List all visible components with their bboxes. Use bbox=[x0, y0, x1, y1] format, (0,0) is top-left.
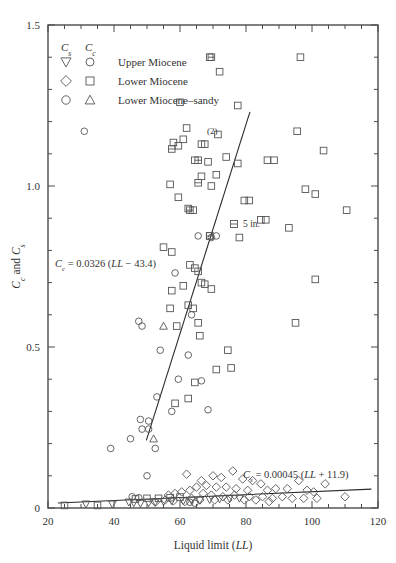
data-point bbox=[212, 483, 220, 491]
legend: CsCcUpper MioceneLower MioceneLower Mioc… bbox=[61, 41, 220, 106]
legend-marker-cc-2 bbox=[85, 95, 95, 104]
y-tick-label: 1.5 bbox=[26, 19, 40, 31]
data-point bbox=[320, 147, 327, 154]
legend-header-cs: Cs bbox=[61, 41, 71, 58]
data-point bbox=[213, 366, 220, 373]
data-point bbox=[240, 496, 248, 504]
data-point bbox=[297, 54, 304, 61]
data-point bbox=[205, 406, 212, 413]
data-point bbox=[303, 486, 311, 494]
data-point bbox=[107, 445, 114, 452]
data-point bbox=[341, 493, 349, 501]
x-tick-label: 40 bbox=[109, 515, 121, 527]
data-point bbox=[157, 347, 164, 354]
data-point bbox=[271, 157, 278, 164]
data-point bbox=[294, 128, 301, 135]
data-point bbox=[229, 467, 237, 475]
data-point bbox=[154, 394, 161, 401]
data-point bbox=[195, 233, 202, 240]
size-note: 5 in. bbox=[243, 219, 260, 229]
data-point bbox=[300, 494, 308, 502]
y-axis-title: Cc and Cs bbox=[10, 244, 27, 288]
data-point bbox=[195, 179, 202, 186]
data-point bbox=[139, 323, 146, 330]
data-point bbox=[207, 491, 215, 499]
data-point bbox=[167, 181, 174, 188]
data-point bbox=[208, 54, 215, 61]
series-cc-lower-miocene bbox=[160, 54, 350, 407]
data-point bbox=[228, 365, 235, 372]
data-point bbox=[292, 320, 299, 327]
data-point bbox=[135, 318, 142, 325]
data-point bbox=[81, 128, 88, 135]
legend-header-cc: Cc bbox=[85, 41, 96, 58]
x-tick-label: 120 bbox=[370, 515, 387, 527]
data-point bbox=[264, 157, 271, 164]
legend-marker-cc-0 bbox=[86, 58, 94, 66]
data-point bbox=[167, 305, 174, 312]
x-tick-label: 100 bbox=[304, 515, 321, 527]
data-point bbox=[172, 400, 179, 407]
y-tick-label: 0 bbox=[35, 502, 41, 514]
data-point bbox=[288, 494, 296, 502]
data-point bbox=[195, 320, 202, 327]
data-point bbox=[152, 445, 159, 452]
data-point bbox=[127, 435, 134, 442]
data-point bbox=[302, 186, 309, 193]
data-point bbox=[144, 473, 151, 480]
size-note-marker bbox=[231, 221, 238, 228]
data-point bbox=[173, 323, 180, 330]
data-point bbox=[188, 312, 195, 319]
data-point bbox=[209, 472, 217, 480]
data-point bbox=[236, 495, 244, 502]
data-point bbox=[278, 493, 286, 501]
data-point bbox=[109, 501, 117, 508]
data-point bbox=[192, 379, 199, 386]
data-point bbox=[312, 276, 319, 283]
data-point bbox=[175, 194, 182, 201]
legend-label: Upper Miocene bbox=[118, 56, 187, 68]
data-point bbox=[197, 332, 204, 339]
legend-marker-cc-1 bbox=[86, 77, 94, 85]
data-point bbox=[236, 234, 243, 241]
data-point bbox=[177, 488, 185, 496]
data-point bbox=[312, 191, 319, 198]
count-note: (2) bbox=[207, 126, 218, 136]
data-point bbox=[213, 171, 220, 178]
data-point bbox=[205, 159, 212, 166]
data-point bbox=[183, 125, 190, 132]
x-tick-label: 80 bbox=[241, 515, 253, 527]
data-point bbox=[198, 173, 205, 180]
axis-titles: Liquid limit (LL)Cc and Cs bbox=[10, 244, 252, 552]
data-point bbox=[263, 217, 270, 224]
data-point bbox=[168, 249, 175, 256]
cc-equation: Cc = 0.0326 (LL − 43.4) bbox=[55, 258, 157, 273]
data-point bbox=[343, 207, 350, 214]
data-point bbox=[217, 473, 225, 481]
legend-marker-cs-1 bbox=[61, 76, 72, 87]
data-point bbox=[168, 146, 175, 153]
data-point bbox=[225, 347, 232, 354]
data-point bbox=[234, 160, 241, 167]
data-point bbox=[145, 500, 153, 507]
data-point bbox=[222, 483, 230, 491]
legend-marker-cs-2 bbox=[62, 96, 70, 104]
data-point bbox=[172, 270, 179, 277]
data-point bbox=[208, 286, 215, 293]
data-point bbox=[271, 484, 279, 492]
data-point bbox=[321, 480, 329, 488]
data-points bbox=[61, 54, 350, 509]
data-point bbox=[257, 480, 265, 488]
data-point bbox=[208, 183, 215, 190]
fit-lines bbox=[58, 112, 372, 503]
x-axis-title: Liquid limit (LL) bbox=[174, 539, 253, 552]
legend-marker-cs-0 bbox=[61, 58, 71, 67]
data-point bbox=[198, 378, 205, 385]
data-point bbox=[145, 418, 152, 425]
data-point bbox=[241, 197, 248, 204]
legend-label: Lower Miocene bbox=[118, 75, 188, 87]
data-point bbox=[185, 352, 192, 359]
figure-container: 2040608010012000.51.01.5 CsCcUpper Mioce… bbox=[0, 0, 396, 563]
data-point bbox=[265, 497, 273, 505]
data-point bbox=[185, 205, 192, 212]
